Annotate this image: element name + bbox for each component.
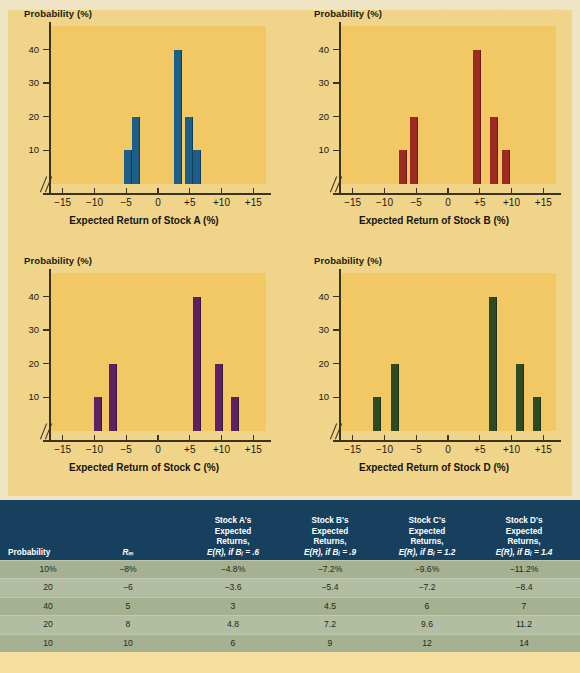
chart-stock-d-x-tick [479,435,480,441]
chart-stock-d-bar [533,397,541,431]
chart-stock-c-y-tick-label: 10 [15,391,39,402]
table-cell-b: 4.5 [282,597,378,615]
chart-stock-c-y-tick-label: 20 [15,358,39,369]
chart-stock-b-x-tick [416,188,417,194]
bottom-strip [0,652,580,673]
chart-stock-a-x-tick [189,188,190,194]
table-row: 10%−8%−4.8%−7.2%−9.6%−11.2% [0,560,580,578]
chart-stock-d-y-tick [333,363,339,364]
chart-stock-c-y-axis-label: Probability (%) [24,255,92,266]
table-row: 40534.567 [0,597,580,615]
chart-stock-a-bar [174,50,182,184]
chart-stock-a-y-tick [43,82,49,83]
chart-stock-b-x-tick-label: −10 [367,197,401,208]
table-col-header-d: Stock D'sExpectedReturns,E(R), if Bᵢ = 1… [476,516,572,558]
charts-container: Probability (%)10203040−15−10−50+5+10+15… [0,0,580,500]
chart-stock-a-x-tick-label: −15 [46,197,80,208]
chart-stock-c-axis-break-icon [40,423,56,441]
chart-stock-b-axis-break-icon [330,176,346,194]
chart-stock-d-x-tick-label: −15 [336,444,370,455]
chart-stock-d-x-tick [384,435,385,441]
table-cell-a: 3 [185,597,281,615]
table-cell-c: −7.2 [379,578,475,596]
table-row: 2084.87.29.611.2 [0,615,580,633]
table-col-header-line: Expected [476,527,572,538]
table-col-header-line: Expected [282,527,378,538]
chart-stock-d-x-tick-label: +5 [463,444,497,455]
chart-stock-b-y-tick-label: 20 [305,111,329,122]
chart-stock-c-x-tick [189,435,190,441]
chart-stock-d-x-tick [543,435,544,441]
chart-stock-c-x-tick-label: +5 [173,444,207,455]
table-cell-probability: 20 [8,578,88,596]
returns-table: ProbabilityRₘStock A'sExpectedReturns,E(… [0,500,580,652]
chart-stock-c-x-tick [62,435,63,441]
chart-stock-d-x-tick [352,435,353,441]
chart-stock-b-plot-area [340,26,556,184]
chart-stock-d-plot-area [340,273,556,431]
table-col-header-line: Rₘ [88,548,168,559]
chart-stock-a-x-tick-label: +5 [173,197,207,208]
table-col-header-line: Expected [379,527,475,538]
chart-stock-c-x-tick [126,435,127,441]
chart-stock-d-bar [373,397,381,431]
chart-stock-d-y-tick-label: 30 [305,324,329,335]
chart-stock-b-x-tick-label: +10 [495,197,529,208]
chart-stock-c-x-tick-label: +10 [205,444,239,455]
chart-stock-b-y-tick [333,116,339,117]
chart-stock-c-x-tick-label: −5 [109,444,143,455]
chart-stock-a-x-tick [157,188,158,194]
table-col-header-probability: Probability [8,548,88,559]
chart-stock-d-y-tick [333,397,339,398]
chart-stock-b-x-tick [384,188,385,194]
chart-stock-a-x-tick [126,188,127,194]
chart-stock-c-x-tick [253,435,254,441]
chart-stock-d-y-tick [333,296,339,297]
chart-stock-d-y-tick-label: 10 [305,391,329,402]
table-cell-a: −4.8% [185,560,281,578]
chart-stock-c-y-tick-label: 40 [15,291,39,302]
chart-stock-b-bar [399,150,407,184]
table-cell-b: 9 [282,634,378,652]
chart-stock-d: Probability (%)10203040−15−10−50+5+10+15… [300,255,568,497]
chart-stock-d-y-axis-label: Probability (%) [314,255,382,266]
chart-stock-a-axis-break-icon [40,176,56,194]
chart-stock-c-plot-area [50,273,266,431]
chart-stock-b-y-axis [339,22,341,194]
table-cell-d: −11.2% [476,560,572,578]
table-col-header-line: Returns, [185,537,281,548]
table-cell-probability: 10 [8,634,88,652]
chart-stock-a-x-tick-label: +10 [205,197,239,208]
chart-stock-c-x-tick-label: +15 [236,444,270,455]
chart-stock-d-x-tick [511,435,512,441]
table-cell-d: 7 [476,597,572,615]
chart-stock-c: Probability (%)10203040−15−10−50+5+10+15… [10,255,278,497]
table-col-header-line: E(R), if Bᵢ = .9 [282,548,378,559]
table-col-header-line: Stock D's [476,516,572,527]
table-header: ProbabilityRₘStock A'sExpectedReturns,E(… [0,500,580,560]
table-cell-c: 6 [379,597,475,615]
chart-stock-d-bar [489,297,497,431]
chart-stock-a-x-tick-label: −10 [77,197,111,208]
chart-stock-d-x-tick-label: +10 [495,444,529,455]
chart-stock-a-x-tick [221,188,222,194]
table-cell-b: 7.2 [282,615,378,633]
chart-stock-a-y-tick [43,116,49,117]
chart-stock-a-y-tick-label: 40 [15,44,39,55]
chart-stock-c-y-tick [43,296,49,297]
chart-stock-c-y-tick-label: 30 [15,324,39,335]
chart-stock-a-y-tick-label: 10 [15,144,39,155]
chart-stock-b-y-tick [333,150,339,151]
table-col-header-line: Returns, [476,537,572,548]
table-col-header-line: E(R), if Bᵢ = 1.4 [476,548,572,559]
table-col-header-line: Returns, [379,537,475,548]
table-col-header-b: Stock B'sExpectedReturns,E(R), if Bᵢ = .… [282,516,378,558]
chart-stock-b-x-tick-label: −5 [399,197,433,208]
chart-stock-b-bar [410,117,418,184]
chart-stock-b-y-axis-label: Probability (%) [314,8,382,19]
chart-stock-c-y-tick [43,329,49,330]
chart-stock-c-x-tick-label: −10 [77,444,111,455]
table-row: 20−6−3.6−5.4−7.2−8.4 [0,578,580,596]
chart-stock-a-y-tick [43,150,49,151]
chart-stock-c-x-tick-label: −15 [46,444,80,455]
